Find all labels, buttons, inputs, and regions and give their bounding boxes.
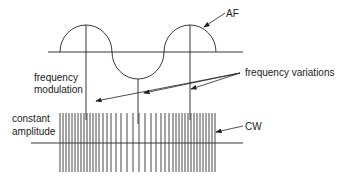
constant-amplitude-label-1: constant bbox=[12, 113, 50, 125]
af-label: AF bbox=[226, 8, 239, 20]
frequency-modulation-label-2: modulation bbox=[34, 84, 83, 96]
constant-amplitude-label-2: amplitude bbox=[12, 126, 55, 138]
frequency-modulation-label-1: frequency bbox=[34, 72, 78, 84]
frequency-variations-label: frequency variations bbox=[245, 67, 335, 79]
fm-carrier-bars bbox=[60, 113, 215, 172]
freq-var-arrow-2 bbox=[144, 73, 240, 93]
cw-label: CW bbox=[245, 121, 262, 133]
cw-arrow bbox=[216, 126, 243, 132]
af-arrow bbox=[204, 13, 225, 27]
